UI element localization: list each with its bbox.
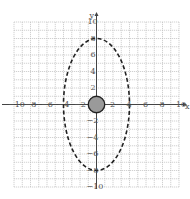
y-tick-label: −4 [87,134,99,142]
y-tick-label: −10 [87,183,104,191]
filled-circle [88,96,105,113]
y-tick-label: −8 [87,167,99,175]
x-tick-label: −4 [58,101,70,109]
x-axis-label: x [185,103,190,111]
y-axis-label: y [90,12,95,20]
x-tick-label: 8 [160,101,165,109]
x-tick-label: −10 [8,101,25,109]
x-tick-label: 2 [110,101,115,109]
x-tick-label: −6 [41,101,53,109]
y-tick-label: 6 [91,51,96,59]
x-tick-label: −8 [25,101,37,109]
y-tick-label: 2 [91,84,96,92]
x-tick-label: 6 [143,101,148,109]
y-tick-label: 4 [91,68,96,76]
y-tick-label: 8 [91,35,96,43]
y-tick-label: −2 [87,117,99,125]
x-tick-label: 4 [127,101,132,109]
y-tick-label: −6 [87,150,99,158]
x-tick-label: −2 [74,101,86,109]
